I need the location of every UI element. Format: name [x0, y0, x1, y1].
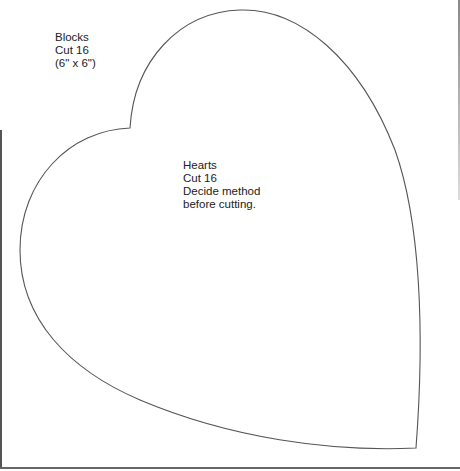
blocks-quantity: Cut 16 [55, 44, 96, 57]
blocks-size: (6" x 6") [55, 57, 96, 70]
blocks-cutting-note: Blocks Cut 16 (6" x 6") [55, 31, 96, 70]
heart-outline [20, 10, 420, 449]
hearts-title: Hearts [183, 159, 260, 172]
hearts-cutting-note: Hearts Cut 16 Decide method before cutti… [183, 159, 260, 211]
hearts-instruction-1: Decide method [183, 185, 260, 198]
hearts-quantity: Cut 16 [183, 172, 260, 185]
blocks-title: Blocks [55, 31, 96, 44]
hearts-instruction-2: before cutting. [183, 198, 260, 211]
heart-template-svg [0, 0, 460, 471]
pattern-page: Blocks Cut 16 (6" x 6") Hearts Cut 16 De… [0, 0, 460, 471]
